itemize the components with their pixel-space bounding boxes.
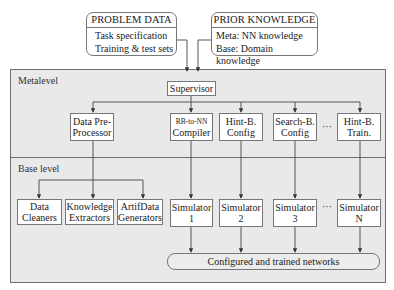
simulator-n: SimulatorN [337, 199, 381, 227]
base-module-knowledge-extractors: KnowledgeExtractors [65, 199, 114, 225]
module-label: Config [226, 127, 256, 139]
system-panel [10, 69, 386, 283]
module-label: Hint-B. [226, 116, 256, 128]
prior-knowledge-title: PRIOR KNOWLEDGE [212, 13, 317, 28]
simulator-label: 1 [172, 213, 211, 225]
simulator-3: Simulator3 [273, 199, 317, 227]
output-networks: Configured and trained networks [167, 253, 380, 270]
problem-data-title: PROBLEM DATA [87, 13, 176, 28]
simulator-1: Simulator1 [170, 199, 213, 227]
module-label: Hint-B. [344, 116, 374, 128]
module-label: Data [22, 201, 57, 213]
supervisor-box: Supervisor [167, 81, 216, 96]
module-label: Data Pre- [73, 116, 112, 128]
meta-module-search-b-config: Search-B.Config [273, 113, 317, 141]
meta-module-hint-b-config: Hint-B.Config [219, 113, 263, 141]
base-module-artifdata-generators: ArtifDataGenerators [117, 199, 163, 225]
meta-module-rb-to-nn-compiler: RB-to-NNCompiler [170, 113, 213, 141]
supervisor-label: Supervisor [170, 83, 213, 95]
base-level-label: Base level [18, 163, 59, 174]
module-label: Generators [118, 212, 162, 224]
metalevel-label: Metalevel [18, 75, 58, 86]
wire-prior-knowledge [198, 40, 211, 71]
simulator-2: Simulator2 [219, 199, 263, 227]
module-label: ArtifData [118, 201, 162, 213]
problem-data-line: Task specification [95, 30, 176, 43]
meta-module-hint-b-train: Hint-B.Train. [337, 113, 381, 141]
problem-data-line: Training & test sets [95, 43, 176, 56]
base-module-data-cleaners: DataCleaners [17, 199, 62, 225]
module-label: Knowledge [66, 201, 112, 213]
module-label: RB-to-NN [173, 116, 211, 128]
module-label: Train. [344, 127, 374, 139]
simulator-label: 2 [221, 213, 260, 225]
problem-data-box: PROBLEM DATA Task specification Training… [86, 12, 177, 56]
module-label: Search-B. [275, 116, 315, 128]
meta-ellipsis: ··· [322, 121, 332, 132]
prior-knowledge-line: Base: Domain knowledge [216, 43, 317, 68]
module-label: Processor [73, 127, 112, 139]
module-label: Config [275, 127, 315, 139]
prior-knowledge-line: Meta: NN knowledge [216, 30, 317, 43]
module-label: Extractors [66, 212, 112, 224]
simulator-label: Simulator [339, 202, 378, 214]
wire-problem-data [177, 40, 187, 71]
level-divider [10, 157, 386, 158]
module-label: Compiler [173, 127, 211, 139]
simulator-label: 3 [275, 213, 314, 225]
prior-knowledge-box: PRIOR KNOWLEDGE Meta: NN knowledge Base:… [211, 12, 318, 56]
simulator-ellipsis: ··· [322, 201, 332, 212]
output-label: Configured and trained networks [208, 256, 340, 267]
simulator-label: Simulator [172, 202, 211, 214]
simulator-label: N [339, 213, 378, 225]
module-label: Cleaners [22, 212, 57, 224]
simulator-label: Simulator [275, 202, 314, 214]
meta-module-data-preprocessor: Data Pre-Processor [70, 113, 114, 141]
simulator-label: Simulator [221, 202, 260, 214]
